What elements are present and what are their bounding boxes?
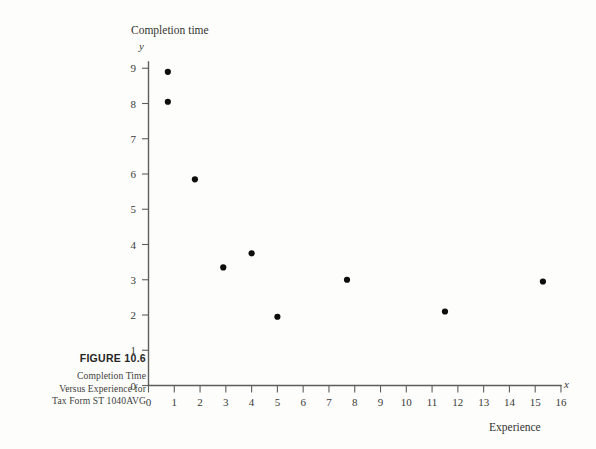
y-tick-label-5: 5 — [131, 203, 137, 215]
chart-title: Completion time — [131, 24, 209, 37]
data-point — [274, 314, 280, 320]
x-tick-label-1: 1 — [172, 396, 178, 408]
x-tick-label-4: 4 — [249, 396, 255, 408]
y-tick-label-9: 9 — [131, 62, 137, 74]
x-tick-label-12: 12 — [452, 396, 463, 408]
data-point — [344, 277, 350, 283]
data-point — [442, 308, 448, 314]
x-tick-label-6: 6 — [300, 396, 306, 408]
x-axis-title: Experience — [489, 421, 541, 434]
y-tick-label-7: 7 — [131, 133, 137, 145]
x-tick-label-0: 0 — [146, 396, 152, 408]
data-point — [540, 278, 546, 284]
x-tick-label-11: 11 — [427, 396, 438, 408]
y-axis-ticks: 0123456789 — [131, 62, 149, 391]
y-tick-label-4: 4 — [131, 239, 137, 251]
x-tick-label-7: 7 — [326, 396, 332, 408]
y-tick-label-1: 1 — [131, 344, 137, 356]
x-tick-label-5: 5 — [275, 396, 281, 408]
y-tick-label-2: 2 — [131, 309, 137, 321]
x-tick-label-2: 2 — [197, 396, 203, 408]
y-axis-symbol: y — [138, 40, 144, 52]
x-tick-label-8: 8 — [352, 396, 358, 408]
scatter-plot-figure: Completion time y x Experience 012345678… — [0, 0, 596, 449]
x-tick-label-9: 9 — [378, 396, 384, 408]
data-point — [249, 250, 255, 256]
x-tick-label-3: 3 — [223, 396, 229, 408]
y-tick-label-0: 0 — [131, 380, 137, 392]
y-tick-label-8: 8 — [131, 98, 137, 110]
data-point — [165, 99, 171, 105]
x-tick-label-13: 13 — [478, 396, 490, 408]
x-tick-label-10: 10 — [401, 396, 413, 408]
x-tick-label-14: 14 — [504, 396, 516, 408]
data-point — [192, 176, 198, 182]
x-axis-ticks: 012345678910111213141516 — [146, 386, 567, 409]
plot-canvas: Completion time y x Experience 012345678… — [0, 0, 596, 449]
data-point — [165, 69, 171, 75]
data-point — [220, 264, 226, 270]
x-axis-symbol: x — [563, 378, 569, 390]
data-points-layer — [165, 69, 546, 320]
x-tick-label-15: 15 — [530, 396, 542, 408]
y-tick-label-6: 6 — [131, 168, 137, 180]
x-tick-label-16: 16 — [555, 396, 567, 408]
y-tick-label-3: 3 — [131, 274, 137, 286]
